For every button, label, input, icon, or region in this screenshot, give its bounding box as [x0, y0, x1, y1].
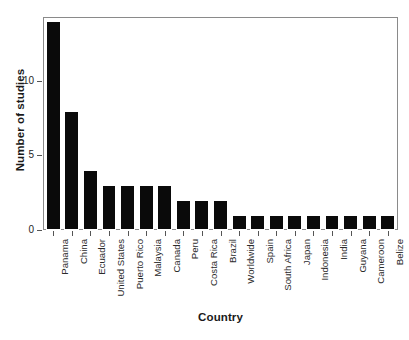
x-axis-tick-mark — [53, 231, 54, 236]
x-axis-tick-label: Costa Rica — [207, 239, 220, 286]
x-axis-tick-mark — [146, 231, 147, 236]
x-axis-tick-label: Spain — [263, 239, 276, 264]
x-axis-title: Country — [43, 311, 398, 323]
x-axis-tick-label: Japan — [300, 239, 313, 265]
x-axis-tick-mark — [295, 231, 296, 236]
x-axis-tick-label: China — [77, 239, 90, 264]
x-axis-tick-label: Canada — [170, 239, 183, 273]
x-axis-tick-mark — [183, 231, 184, 236]
x-axis-tick-label: Cameroon — [374, 239, 387, 284]
x-axis-tick-mark — [351, 231, 352, 236]
x-axis-tick-label: Panama — [58, 239, 71, 275]
x-axis-tick-label: Malaysia — [151, 239, 164, 277]
x-axis-tick-label: Indonesia — [318, 239, 331, 281]
y-axis-tick-mark — [37, 81, 42, 82]
x-axis-tick-label: Peru — [188, 239, 201, 259]
x-axis-tick-label: South Africa — [281, 239, 294, 291]
x-axis-tick-label: Guyana — [356, 239, 369, 273]
x-axis-tick-label: Ecuador — [95, 239, 108, 275]
bar-chart-figure: Number of studies 0510 PanamaChinaEcuado… — [0, 0, 409, 340]
x-axis-tick-mark — [72, 231, 73, 236]
x-axis-tick-mark — [221, 231, 222, 236]
x-axis-tick-mark — [258, 231, 259, 236]
x-axis-ticks: PanamaChinaEcuadorUnited StatesPuerto Ri… — [0, 0, 409, 340]
x-axis-tick-label: Brazil — [226, 239, 239, 263]
x-axis-tick-mark — [276, 231, 277, 236]
x-axis-tick-label: Belize — [393, 239, 406, 265]
x-axis-tick-label: United States — [114, 239, 127, 297]
x-axis-tick-mark — [332, 231, 333, 236]
x-axis-tick-mark — [239, 231, 240, 236]
x-axis-tick-label: Worldwide — [244, 239, 257, 284]
x-axis-tick-mark — [369, 231, 370, 236]
x-axis-tick-mark — [388, 231, 389, 236]
y-axis-tick-mark — [37, 155, 42, 156]
x-axis-tick-label: Puerto Rico — [133, 239, 146, 289]
x-axis-tick-mark — [109, 231, 110, 236]
x-axis-tick-mark — [90, 231, 91, 236]
x-axis-tick-mark — [128, 231, 129, 236]
x-axis-tick-label: India — [337, 239, 350, 260]
y-axis-tick-mark — [37, 230, 42, 231]
x-axis-tick-mark — [313, 231, 314, 236]
x-axis-tick-mark — [202, 231, 203, 236]
x-axis-tick-mark — [165, 231, 166, 236]
